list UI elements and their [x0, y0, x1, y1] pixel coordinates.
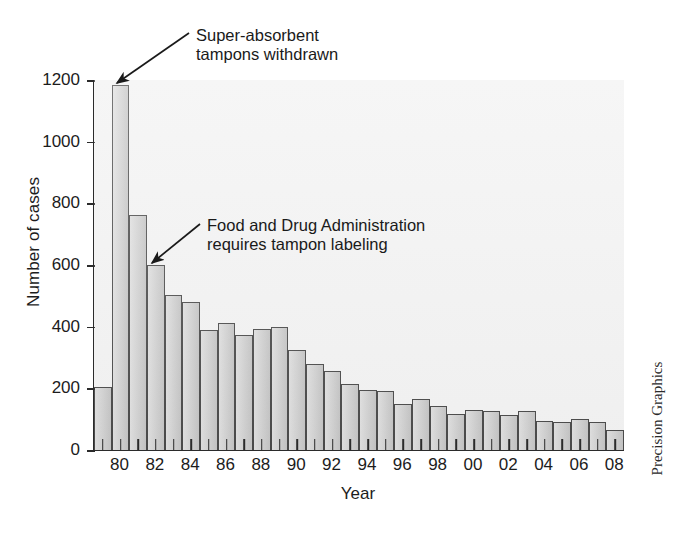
y-tick-label: 400: [26, 317, 80, 337]
x-tick-label-cell: 80: [111, 455, 129, 481]
y-tick-mark: [87, 142, 95, 144]
bar: [253, 329, 271, 450]
x-tick-label-cell: [411, 455, 429, 481]
bar-series: [94, 80, 624, 450]
x-tick-label-cell: [270, 455, 288, 481]
x-tick-label: 82: [145, 455, 164, 475]
x-tick-label-cell: 92: [323, 455, 341, 481]
x-axis-tick-labels: 808284868890929496980002040608: [93, 455, 623, 481]
bar: [129, 215, 147, 450]
x-tick-label-cell: [234, 455, 252, 481]
x-tick-label-cell: [376, 455, 394, 481]
x-tick-label-cell: [93, 455, 111, 481]
x-tick-label: 02: [499, 455, 518, 475]
bar: [377, 391, 395, 450]
plot-area: [93, 80, 624, 451]
bar: [394, 404, 412, 450]
chart-figure: Number of cases 1200 1000 800 600 400 20…: [0, 0, 676, 534]
bar: [218, 323, 236, 450]
x-tick-label-cell: [305, 455, 323, 481]
bar: [200, 330, 218, 450]
y-tick-label: 1200: [26, 70, 80, 90]
x-tick-label-cell: 88: [252, 455, 270, 481]
x-tick-label-cell: [446, 455, 464, 481]
x-tick-label-cell: 84: [181, 455, 199, 481]
bar: [500, 415, 518, 450]
bar: [571, 419, 589, 450]
y-tick-mark: [87, 203, 95, 205]
x-tick-label-cell: 94: [358, 455, 376, 481]
arrow-super-absorbent: [117, 33, 189, 83]
annotation-fda-labeling: Food and Drug Administration requires ta…: [207, 216, 425, 255]
annotation-super-absorbent: Super-absorbent tampons withdrawn: [196, 26, 338, 65]
x-tick-label-cell: [164, 455, 182, 481]
y-axis-tick-labels: 1200 1000 800 600 400 200 0: [22, 0, 80, 534]
bar: [306, 364, 324, 450]
x-tick-label: 86: [216, 455, 235, 475]
x-tick-label-cell: [552, 455, 570, 481]
bar: [182, 302, 200, 450]
x-tick-label-cell: [199, 455, 217, 481]
bar: [412, 399, 430, 450]
bar: [112, 85, 130, 450]
bar: [553, 422, 571, 450]
x-tick-label: 90: [287, 455, 306, 475]
bar: [483, 411, 501, 450]
bar: [430, 406, 448, 450]
x-axis-title: Year: [93, 484, 623, 504]
credit-precision-graphics: Precision Graphics: [649, 339, 666, 499]
bar: [465, 410, 483, 450]
bar: [518, 411, 536, 450]
x-tick-label: 96: [393, 455, 412, 475]
x-tick-label-cell: 90: [287, 455, 305, 481]
bar: [536, 421, 554, 450]
x-tick-label-cell: [588, 455, 606, 481]
x-tick-label: 84: [181, 455, 200, 475]
x-tick-label-cell: [517, 455, 535, 481]
x-tick-label-cell: 96: [393, 455, 411, 481]
x-tick-label: 88: [251, 455, 270, 475]
bar: [341, 384, 359, 450]
x-tick-label-cell: 82: [146, 455, 164, 481]
y-tick-mark: [87, 450, 95, 452]
bar: [606, 430, 624, 450]
x-tick-label-cell: 86: [217, 455, 235, 481]
x-tick-label-cell: [340, 455, 358, 481]
x-tick-label: 00: [463, 455, 482, 475]
x-tick-label: 98: [428, 455, 447, 475]
bar: [165, 295, 183, 450]
x-tick-label: 06: [570, 455, 589, 475]
x-tick-label: 08: [605, 455, 624, 475]
bar: [288, 350, 306, 450]
y-tick-label: 800: [26, 193, 80, 213]
bar: [147, 265, 165, 450]
y-tick-label: 1000: [26, 132, 80, 152]
y-tick-mark: [87, 388, 95, 390]
x-tick-label-cell: 00: [464, 455, 482, 481]
y-tick-mark: [87, 327, 95, 329]
y-tick-label: 0: [26, 440, 80, 460]
bar: [235, 335, 253, 450]
y-tick-mark: [87, 80, 95, 82]
y-tick-label: 600: [26, 255, 80, 275]
x-tick-label-cell: 04: [535, 455, 553, 481]
bar: [359, 390, 377, 450]
x-tick-label-cell: [128, 455, 146, 481]
bar: [589, 422, 607, 450]
x-tick-label: 04: [534, 455, 553, 475]
x-tick-label-cell: 02: [499, 455, 517, 481]
x-tick-label-cell: 08: [605, 455, 623, 481]
x-tick-label-cell: [482, 455, 500, 481]
bar: [94, 387, 112, 450]
bar: [271, 327, 289, 450]
x-tick-label: 92: [322, 455, 341, 475]
x-tick-label-cell: 98: [429, 455, 447, 481]
y-tick-mark: [87, 265, 95, 267]
x-tick-label: 80: [110, 455, 129, 475]
y-tick-label: 200: [26, 378, 80, 398]
bar: [324, 371, 342, 450]
bar: [447, 414, 465, 450]
x-tick-label-cell: 06: [570, 455, 588, 481]
x-tick-label: 94: [357, 455, 376, 475]
